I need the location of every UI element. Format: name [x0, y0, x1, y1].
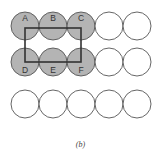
circle-empty	[123, 12, 151, 40]
circle-label-f: F	[78, 65, 83, 75]
circle-grid-diagram: ABCDEF	[0, 0, 161, 153]
circle-empty	[123, 48, 151, 76]
circle-empty	[95, 90, 123, 118]
circle-empty	[95, 48, 123, 76]
circle-label-b: B	[50, 13, 56, 23]
circle-label-c: C	[78, 13, 84, 23]
circle-empty	[95, 12, 123, 40]
circle-empty	[11, 90, 39, 118]
circle-empty	[67, 90, 95, 118]
circle-label-a: A	[22, 13, 28, 23]
figure-caption: (b)	[0, 140, 161, 149]
circle-empty	[123, 90, 151, 118]
circle-label-e: E	[50, 65, 56, 75]
circle-label-d: D	[22, 65, 28, 75]
circle-empty	[39, 90, 67, 118]
